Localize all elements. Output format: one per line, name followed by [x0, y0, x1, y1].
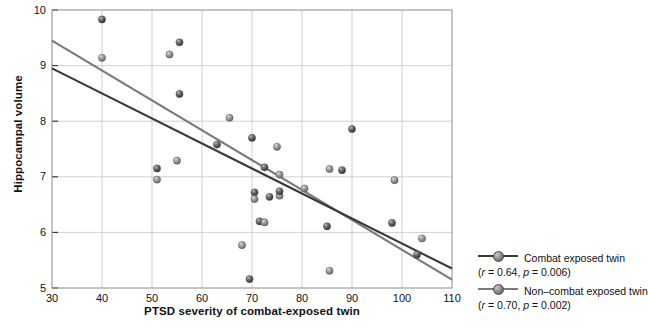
data-point: [348, 125, 355, 132]
data-point: [261, 219, 268, 226]
data-point: [153, 165, 160, 172]
data-point: [388, 219, 395, 226]
legend-marker-noncombat: [493, 284, 504, 295]
data-point: [273, 143, 280, 150]
x-tick-label: 70: [232, 293, 272, 304]
gridlines: [52, 10, 452, 288]
data-point: [248, 134, 255, 141]
x-tick-label: 60: [182, 293, 222, 304]
data-point: [251, 189, 258, 196]
data-point: [338, 167, 345, 174]
data-points: [98, 16, 425, 283]
data-point: [98, 16, 105, 23]
data-point: [413, 251, 420, 258]
data-point: [326, 267, 333, 274]
data-point: [276, 188, 283, 195]
y-tick-label: 5: [24, 283, 46, 294]
y-tick-label: 7: [24, 171, 46, 182]
data-point: [323, 223, 330, 230]
axis-ticks: [52, 10, 58, 288]
data-point: [153, 176, 160, 183]
data-point: [391, 177, 398, 184]
y-tick-label: 10: [24, 5, 46, 16]
data-point: [176, 39, 183, 46]
legend-entry-combat: Combat exposed twin (r = 0.64, p = 0.006…: [478, 248, 637, 279]
data-point: [173, 157, 180, 164]
legend-stat-noncombat: (r = 0.70, p = 0.002): [478, 299, 637, 312]
data-point: [301, 185, 308, 192]
data-point: [176, 90, 183, 97]
legend-entry-noncombat: Non–combat exposed twin (r = 0.70, p = 0…: [478, 281, 637, 312]
data-point: [166, 51, 173, 58]
legend-marker-combat: [493, 251, 504, 262]
x-tick-label: 40: [82, 293, 122, 304]
data-point: [226, 114, 233, 121]
legend-stat-combat: (r = 0.64, p = 0.006): [478, 266, 637, 279]
data-point: [251, 195, 258, 202]
x-axis-title: PTSD severity of combat-exposed twin: [52, 305, 452, 317]
x-tick-label: 100: [382, 293, 422, 304]
data-point: [276, 171, 283, 178]
x-tick-label: 110: [432, 293, 472, 304]
x-tick-label: 30: [32, 293, 72, 304]
y-tick-label: 6: [24, 227, 46, 238]
legend-name-combat: Combat exposed twin: [524, 252, 625, 264]
y-tick-label: 8: [24, 116, 46, 127]
data-point: [238, 242, 245, 249]
data-point: [266, 193, 273, 200]
legend: Combat exposed twin (r = 0.64, p = 0.006…: [478, 248, 637, 314]
x-tick-label: 80: [282, 293, 322, 304]
data-point: [418, 235, 425, 242]
data-point: [213, 141, 220, 148]
x-tick-label: 50: [132, 293, 172, 304]
data-point: [98, 54, 105, 61]
x-tick-label: 90: [332, 293, 372, 304]
data-point: [326, 165, 333, 172]
y-axis-title: Hippocampal volume: [12, 34, 24, 234]
legend-name-noncombat: Non–combat exposed twin: [524, 285, 648, 297]
data-point: [246, 276, 253, 283]
y-tick-label: 9: [24, 60, 46, 71]
data-point: [261, 164, 268, 171]
